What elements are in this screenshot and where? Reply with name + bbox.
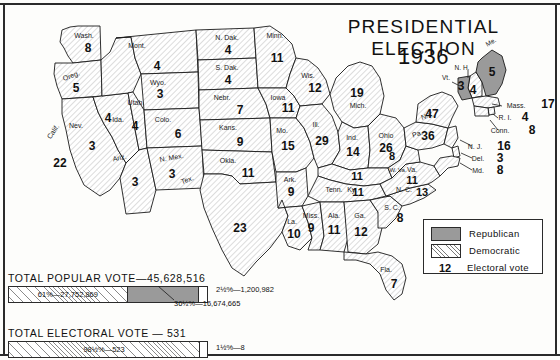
sidelabel-del: Del. — [472, 155, 485, 162]
ev-nh: 4 — [470, 83, 477, 97]
label-sdak: S. Dak. — [216, 64, 239, 71]
leader-md — [460, 163, 472, 170]
label-iowa: Iowa — [271, 94, 286, 101]
label-ill: Ill. — [313, 121, 320, 128]
sidelabel-conn: Conn. — [491, 127, 510, 134]
label-wis: Wis. — [301, 72, 315, 79]
ev-tex: 23 — [233, 221, 247, 235]
state-fla[interactable] — [344, 252, 406, 300]
ev-ga: 12 — [354, 225, 368, 239]
electoral-bar-democratic: 98½%—523 — [9, 342, 199, 357]
sidelabel-ri: R. I. — [499, 114, 512, 121]
label-nc: N. C. — [396, 186, 412, 193]
ev-vt: 3 — [458, 79, 465, 93]
popular-bar-democratic: 61%—27,752,869 — [9, 287, 127, 302]
label-wyo: Wyo. — [150, 79, 166, 87]
leader-del — [461, 153, 472, 158]
state-wyo[interactable] — [141, 72, 199, 110]
label-ark: Ark. — [284, 176, 297, 183]
label-ala: Ala. — [328, 212, 340, 219]
ev-wva: 8 — [389, 150, 395, 162]
label-okla: Okla. — [220, 157, 236, 164]
label-colo: Colo. — [155, 116, 171, 123]
legend-electoral-number: 12 — [431, 262, 459, 274]
state-colo[interactable] — [144, 108, 202, 148]
ev-nmex: 3 — [169, 167, 176, 181]
legend-label-democratic: Democratic — [469, 245, 520, 256]
ev-ida: 4 — [105, 111, 112, 125]
ev-nev: 3 — [89, 139, 96, 153]
label-mich: Mich. — [350, 102, 367, 109]
label-ndak: N. Dak. — [215, 34, 238, 41]
ev-ala: 11 — [328, 223, 341, 237]
leader-ri — [493, 114, 498, 118]
electoral-rep-note: 1½%—8 — [216, 343, 245, 352]
ev-ri: 4 — [522, 110, 529, 124]
label-wva: W. Va. — [389, 167, 407, 173]
legend-row-republican: Republican — [431, 226, 535, 241]
map-legend: Republican Democratic 12 Electoral vote — [423, 219, 543, 274]
label-nebr: Nebr. — [214, 94, 231, 101]
ev-ndak: 4 — [225, 43, 232, 57]
label-la: La. — [287, 218, 297, 225]
election-year: 1936 — [316, 44, 531, 70]
state-nebr[interactable] — [199, 88, 270, 120]
ev-minn: 11 — [271, 51, 284, 65]
label-fla: Fla. — [380, 266, 392, 273]
ev-wis: 12 — [308, 81, 322, 95]
label-vt: Vt. — [442, 74, 450, 81]
sidelabel-mass: Mass. — [507, 102, 526, 109]
label-calif: Calif. — [46, 123, 61, 140]
label-ohio: Ohio — [379, 132, 394, 139]
ev-ark: 9 — [288, 185, 295, 199]
label-tenn: Tenn. — [325, 186, 342, 193]
vote-totals-panel: TOTAL POPULAR VOTE—45,628,516 61%—27,752… — [8, 272, 298, 360]
legend-row-democratic: Democratic — [431, 243, 535, 258]
ev-iowa: 11 — [282, 101, 295, 115]
republican-swatch — [431, 227, 461, 241]
state-md[interactable] — [434, 156, 460, 176]
label-miss: Miss. — [303, 212, 319, 219]
ev-ariz: 3 — [132, 175, 139, 189]
ev-mont: 4 — [154, 59, 161, 73]
ev-pa: 36 — [421, 129, 435, 143]
ev-utah: 4 — [132, 119, 139, 133]
democratic-swatch — [431, 244, 461, 258]
label-kans: Kans. — [219, 124, 237, 131]
ev-mass: 17 — [541, 97, 555, 111]
label-va: Va. — [407, 166, 417, 173]
ev-nebr: 7 — [237, 103, 244, 117]
ev-wash: 8 — [85, 41, 92, 55]
ev-miss: 9 — [308, 221, 315, 235]
ev-mich: 19 — [350, 86, 364, 100]
map-page: Wash. Oreg. Calif. Nev. Ida. Mont. Wyo. … — [0, 0, 560, 360]
ev-oreg: 5 — [73, 81, 80, 95]
label-minn: Minn. — [266, 32, 283, 39]
legend-row-electoral: 12 Electoral vote — [431, 260, 535, 275]
ev-kans: 9 — [237, 135, 244, 149]
ev-conn: 8 — [529, 123, 536, 137]
ev-tenn: 11 — [352, 186, 364, 198]
legend-label-electoral: Electoral vote — [467, 262, 529, 273]
label-mo: Mo. — [276, 127, 288, 134]
ev-calif: 22 — [53, 156, 67, 170]
ev-va: 11 — [406, 174, 418, 186]
ev-fla: 7 — [391, 277, 398, 291]
label-sc: S. C. — [384, 204, 400, 211]
ev-mo: 15 — [281, 139, 295, 153]
electoral-vote-heading: TOTAL ELECTORAL VOTE — 531 — [8, 327, 298, 339]
ev-nc: 13 — [416, 186, 428, 198]
label-wash: Wash. — [74, 32, 94, 39]
electoral-bar-republican — [199, 342, 207, 357]
label-ga: Ga. — [354, 212, 365, 219]
sidelabel-nj: N. J. — [468, 143, 482, 150]
ev-la: 10 — [287, 227, 301, 241]
sidelabel-md: Md. — [472, 167, 484, 174]
label-ida: Ida. — [112, 116, 124, 123]
label-ind: Ind. — [346, 134, 358, 141]
ev-ny: 47 — [425, 107, 439, 121]
popular-vote-heading: TOTAL POPULAR VOTE—45,628,516 — [8, 272, 298, 284]
ev-ky: 11 — [351, 170, 363, 182]
popular-rep-note: 36½%—16,674,665 — [174, 299, 240, 308]
state-conn[interactable] — [474, 106, 489, 116]
